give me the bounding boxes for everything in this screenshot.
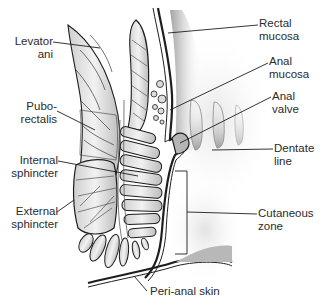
label-cutaneous-zone: Cutaneous zone <box>258 207 314 233</box>
label-puborectalis: Pubo- rectalis <box>3 100 57 126</box>
leader-peri-anal-skin <box>134 276 147 291</box>
label-dentate-line: Dentate line <box>274 142 314 168</box>
label-peri-anal-skin: Peri-anal skin <box>150 285 220 298</box>
label-external-sphincter: External sphincter <box>0 205 58 231</box>
internal-sphincter-band <box>128 20 149 130</box>
label-anal-valve: Anal valve <box>272 90 299 116</box>
label-internal-sphincter: Internal sphincter <box>0 154 58 180</box>
leader-external-sphincter <box>57 200 74 212</box>
lumen-shading <box>155 10 275 285</box>
label-levator-ani: Levator ani <box>3 35 53 61</box>
label-anal-mucosa: Anal mucosa <box>269 55 309 81</box>
label-rectal-mucosa: Rectal mucosa <box>259 17 299 43</box>
